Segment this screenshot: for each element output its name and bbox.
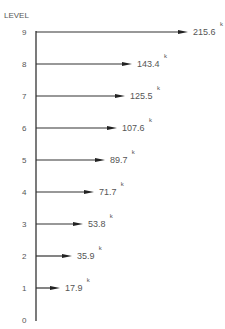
force-value: 35.9 [77, 251, 95, 261]
arrow-head-icon [115, 94, 125, 98]
level-label: 8 [22, 60, 27, 69]
level-row: 8143.4k [22, 53, 168, 69]
level-label: 7 [22, 92, 27, 101]
unit-superscript: k [132, 149, 136, 155]
force-value: 71.7 [99, 187, 117, 197]
arrow-head-icon [122, 62, 132, 66]
level-label: 5 [22, 156, 27, 165]
force-value: 125.5 [130, 91, 153, 101]
unit-superscript: k [220, 21, 224, 27]
unit-superscript: k [110, 213, 114, 219]
level-label: 0 [22, 316, 27, 325]
level-row: 235.9k [22, 245, 103, 261]
arrow-head-icon [50, 286, 60, 290]
level-row: 117.9k [22, 277, 91, 293]
unit-superscript: k [164, 53, 168, 59]
unit-superscript: k [149, 117, 153, 123]
axis-title: LEVEL [4, 11, 29, 20]
level-row: 6107.6k [22, 117, 153, 133]
arrow-head-icon [178, 30, 188, 34]
force-value: 143.4 [137, 59, 160, 69]
unit-superscript: k [157, 85, 161, 91]
unit-superscript: k [87, 277, 91, 283]
arrow-head-icon [84, 190, 94, 194]
level-row: 471.7k [22, 181, 125, 197]
level-label: 9 [22, 28, 27, 37]
level-row: 7125.5k [22, 85, 161, 101]
unit-superscript: k [99, 245, 103, 251]
level-force-diagram: LEVEL 0117.9k235.9k353.8k471.7k589.7k610… [0, 0, 225, 329]
arrow-head-icon [73, 222, 83, 226]
arrow-head-icon [107, 126, 117, 130]
force-value: 53.8 [88, 219, 106, 229]
level-label: 1 [22, 284, 27, 293]
level-label: 3 [22, 220, 27, 229]
force-value: 17.9 [65, 283, 83, 293]
arrow-head-icon [62, 254, 72, 258]
level-label: 4 [22, 188, 27, 197]
arrow-head-icon [95, 158, 105, 162]
level-row: 0 [22, 316, 27, 325]
force-value: 215.6 [193, 27, 216, 37]
force-value: 89.7 [110, 155, 128, 165]
unit-superscript: k [121, 181, 125, 187]
level-label: 2 [22, 252, 27, 261]
level-row: 9215.6k [22, 21, 224, 37]
force-value: 107.6 [122, 123, 145, 133]
level-label: 6 [22, 124, 27, 133]
level-row: 589.7k [22, 149, 136, 165]
